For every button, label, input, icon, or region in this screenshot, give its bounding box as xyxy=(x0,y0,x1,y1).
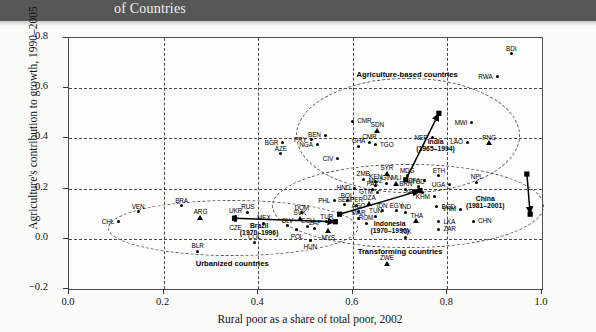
data-point-chl xyxy=(117,220,120,223)
data-point-bfa xyxy=(423,179,426,182)
gridline-vertical xyxy=(353,38,354,289)
point-label-uga: UGA xyxy=(432,181,446,188)
zone-label-agriculture-based: Agriculture-based countries xyxy=(357,70,458,79)
data-point-eth xyxy=(437,174,440,177)
x-tick-label: 0.6 xyxy=(332,296,372,307)
data-point-vnm xyxy=(459,208,462,211)
point-label-cmr: CMR xyxy=(357,117,371,124)
data-point-npl xyxy=(475,181,478,184)
data-point-blr xyxy=(196,250,199,253)
data-point-gtm xyxy=(376,191,379,194)
point-label-sen: SEN xyxy=(338,196,351,203)
point-label-zwe: ZWE xyxy=(380,254,394,261)
zone-label-transforming: Transforming countries xyxy=(358,246,443,255)
data-point-ven xyxy=(137,210,140,213)
y-tick-label: −0.2 xyxy=(8,281,48,292)
zone-label-urbanized: Urbanized countries xyxy=(196,258,269,267)
x-tick-label: 0.0 xyxy=(48,296,88,307)
data-point-pak xyxy=(371,188,374,191)
point-label-mdg: MDG xyxy=(400,167,415,174)
trajectory-label-china: China(1981–2001) xyxy=(466,195,505,209)
data-point-sen xyxy=(343,203,346,206)
data-point-rom xyxy=(365,222,368,225)
y-tick-mark xyxy=(63,238,68,239)
data-point-sdn xyxy=(374,128,380,133)
trajectory-name-india: India xyxy=(416,138,455,145)
y-tick-mark xyxy=(63,87,68,88)
y-tick-label: 0.4 xyxy=(8,130,48,141)
x-tick-mark xyxy=(541,289,542,294)
x-tick-label: 0.4 xyxy=(237,296,277,307)
gridline-vertical xyxy=(164,38,165,289)
point-label-blr: BLR xyxy=(192,242,204,249)
data-point-mwi xyxy=(470,121,473,124)
trajectory-label-brazil: Brazil(1970–1996) xyxy=(240,222,279,236)
x-tick-mark xyxy=(257,289,258,294)
data-point-gha xyxy=(357,145,360,148)
trajectory-end-china xyxy=(528,212,533,217)
data-point-tur xyxy=(325,220,328,223)
data-point-zmb xyxy=(362,178,365,181)
x-tick-mark xyxy=(163,289,164,294)
scatter-plot-area: Agriculture-based countriesTransforming … xyxy=(68,37,543,290)
data-point-png xyxy=(486,140,492,145)
point-label-hun: HUN xyxy=(303,243,317,250)
data-point-khm xyxy=(433,195,436,198)
point-label-sdn: SDN xyxy=(371,121,384,128)
y-tick-label: 0.0 xyxy=(8,231,48,242)
point-label-syr: SYR xyxy=(380,164,393,171)
data-point-gin xyxy=(385,182,388,185)
data-point-bdi xyxy=(510,52,513,55)
point-label-ago: AGO xyxy=(352,202,366,209)
data-point-ind xyxy=(404,211,407,214)
page-header-banner xyxy=(0,0,596,21)
point-label-tur: TUR xyxy=(320,213,333,220)
data-point-ben xyxy=(324,134,327,137)
trajectory-label-indonesia: Indonesia(1970–1996) xyxy=(370,220,409,234)
trajectory-period-india: (1965–1994) xyxy=(416,145,455,152)
point-label-ind: IND xyxy=(400,203,411,210)
y-tick-mark xyxy=(63,188,68,189)
trajectory-line-china xyxy=(527,174,530,214)
trajectory-start-indonesia xyxy=(337,212,342,217)
trajectory-name-indonesia: Indonesia xyxy=(370,220,409,227)
data-point-tjk xyxy=(404,236,407,239)
point-label-gha: GHA xyxy=(352,137,366,144)
data-point-phl xyxy=(333,199,336,202)
point-label-slv: SLV xyxy=(282,217,293,224)
data-point-lao xyxy=(466,141,469,144)
point-label-chl: CHL xyxy=(102,218,115,225)
trajectory-start-china xyxy=(524,171,529,176)
point-label-mex: MEX xyxy=(257,214,271,221)
point-label-vnm: VNM xyxy=(442,205,456,212)
y-tick-label: 0.6 xyxy=(8,80,48,91)
data-point-tgo xyxy=(374,143,377,146)
data-point-slv xyxy=(286,224,289,227)
point-label-chn: CHN xyxy=(478,217,492,224)
gridline-horizontal xyxy=(69,88,542,89)
x-tick-label: 1.0 xyxy=(521,296,561,307)
y-tick-label: 0.2 xyxy=(8,181,48,192)
trajectory-period-indonesia: (1970–1996) xyxy=(370,227,409,234)
gridline-vertical xyxy=(258,38,259,289)
trajectory-name-brazil: Brazil xyxy=(240,222,279,229)
point-label-dom: DOM xyxy=(294,204,309,211)
data-point-bgd xyxy=(435,205,438,208)
point-label-eth: ETH xyxy=(433,167,445,174)
point-label-pol: POL xyxy=(291,233,304,240)
data-point-tun xyxy=(374,215,377,218)
x-tick-label: 0.2 xyxy=(143,296,183,307)
point-label-ven: VEN xyxy=(132,203,145,210)
point-label-bdi: BDI xyxy=(506,45,516,52)
data-point-cmr xyxy=(368,141,371,144)
trajectory-period-china: (1981–2001) xyxy=(466,202,505,209)
header-shadow xyxy=(0,21,596,26)
point-label-rus: RUS xyxy=(241,203,254,210)
gridline-horizontal xyxy=(69,239,542,240)
y-tick-mark xyxy=(63,137,68,138)
point-label-ukr: UKR xyxy=(229,207,242,214)
data-point-chn xyxy=(472,220,475,223)
data-point-cmr xyxy=(351,120,354,123)
point-label-tgo: TGO xyxy=(380,141,394,148)
data-point-aze xyxy=(279,152,282,155)
